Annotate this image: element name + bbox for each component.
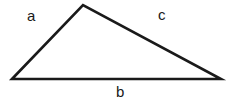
side-label-a: a	[27, 8, 35, 23]
triangle-diagram: a c b	[0, 0, 231, 104]
triangle-outline	[12, 5, 221, 79]
side-label-b: b	[116, 84, 124, 99]
side-label-c: c	[158, 7, 166, 22]
